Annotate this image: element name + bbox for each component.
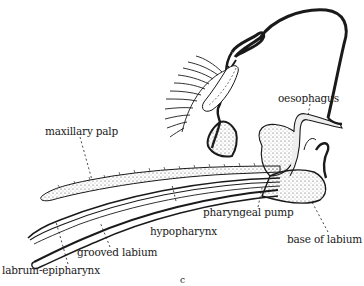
label-maxillary-palp: maxillary palp: [45, 125, 118, 137]
label-base-of-labium: base of labium: [287, 233, 362, 245]
label-grooved-labium: grooved labium: [77, 246, 157, 258]
leader-base-of-labium: [312, 202, 328, 232]
leader-grooved-labium: [100, 222, 110, 247]
label-labrum-epipharynx: labrum-epipharynx: [2, 264, 100, 276]
label-hypopharynx: hypopharynx: [150, 225, 217, 237]
pharynx-region: [208, 121, 237, 156]
label-pharyngeal-pump: pharyngeal pump: [203, 206, 294, 218]
caption-fragment: c: [180, 274, 185, 286]
leader-maxillary-palp: [80, 137, 92, 180]
label-oesophagus: oesophagus: [278, 92, 339, 104]
